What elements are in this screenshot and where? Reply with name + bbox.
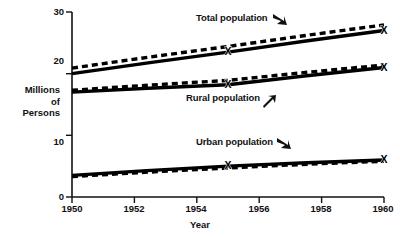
annotation-rural-population: Rural population xyxy=(186,92,260,103)
x-axis-label: Year xyxy=(0,219,400,230)
arrow-down-right-icon-urban xyxy=(277,138,291,149)
marker-x-s0-1955: X xyxy=(224,45,231,57)
annotation-urban-population: Urban population xyxy=(196,136,273,147)
x-tick-label-1956: 1956 xyxy=(237,203,281,214)
y-tick-label-20: 20 xyxy=(38,55,64,66)
marker-x-s1-1955: X xyxy=(224,78,231,90)
y-tick-label-30: 30 xyxy=(38,6,64,17)
arrow-up-right-icon-rural xyxy=(263,95,276,108)
y-axis-label-line-1: Millions xyxy=(2,84,60,96)
y-axis-label-line-3: Persons xyxy=(2,107,60,119)
marker-x-s2-1955: X xyxy=(224,159,231,171)
x-tick-label-1950: 1950 xyxy=(50,203,94,214)
x-tick-label-1958: 1958 xyxy=(299,203,343,214)
y-tick-label-10: 10 xyxy=(38,136,64,147)
annotation-urban-population-text: Urban population xyxy=(196,136,273,147)
marker-x-s0-1960: X xyxy=(380,24,387,36)
x-tick-label-1954: 1954 xyxy=(174,203,218,214)
annotation-total-population-text: Total population xyxy=(196,12,268,23)
arrow-down-right-icon-total xyxy=(273,14,287,25)
y-tick-label-0: 0 xyxy=(38,191,64,202)
x-tick-label-1960: 1960 xyxy=(361,203,400,214)
x-tick-label-1952: 1952 xyxy=(112,203,156,214)
marker-x-s1-1960: X xyxy=(380,61,387,73)
annotation-rural-population-text: Rural population xyxy=(186,92,260,103)
annotation-total-population: Total population xyxy=(196,12,268,23)
marker-x-s2-1960: X xyxy=(380,153,387,165)
y-axis-label: Millions of Persons xyxy=(2,84,60,119)
y-axis-label-line-2: of xyxy=(2,96,60,108)
population-line-chart: Millions of Persons 30 20 10 0 1950 1952… xyxy=(0,0,400,237)
